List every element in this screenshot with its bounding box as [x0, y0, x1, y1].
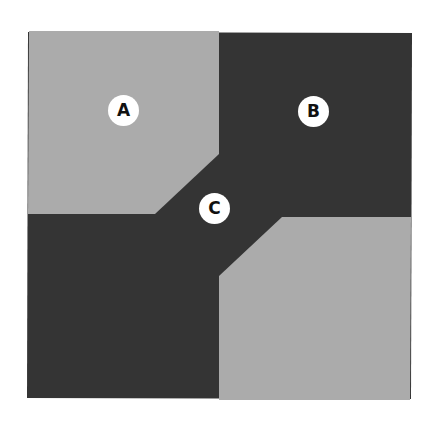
label-c: C [199, 193, 230, 224]
label-b: B [298, 96, 329, 127]
label-a-text: A [117, 102, 130, 119]
label-c-text: C [208, 200, 220, 217]
label-a: A [108, 95, 139, 126]
label-b-text: B [307, 103, 320, 120]
